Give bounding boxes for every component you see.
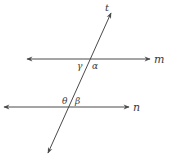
line-n-label: n <box>133 101 140 114</box>
transversal-t-label: t <box>105 2 110 13</box>
parallel-lines-diagram: m n t γ α θ β <box>0 0 173 162</box>
transversal-t <box>48 13 111 153</box>
angle-theta-label: θ <box>62 96 68 106</box>
angle-beta-label: β <box>74 96 80 106</box>
angle-alpha-label: α <box>92 61 98 71</box>
line-m-label: m <box>154 53 164 66</box>
angle-gamma-label: γ <box>77 61 83 71</box>
